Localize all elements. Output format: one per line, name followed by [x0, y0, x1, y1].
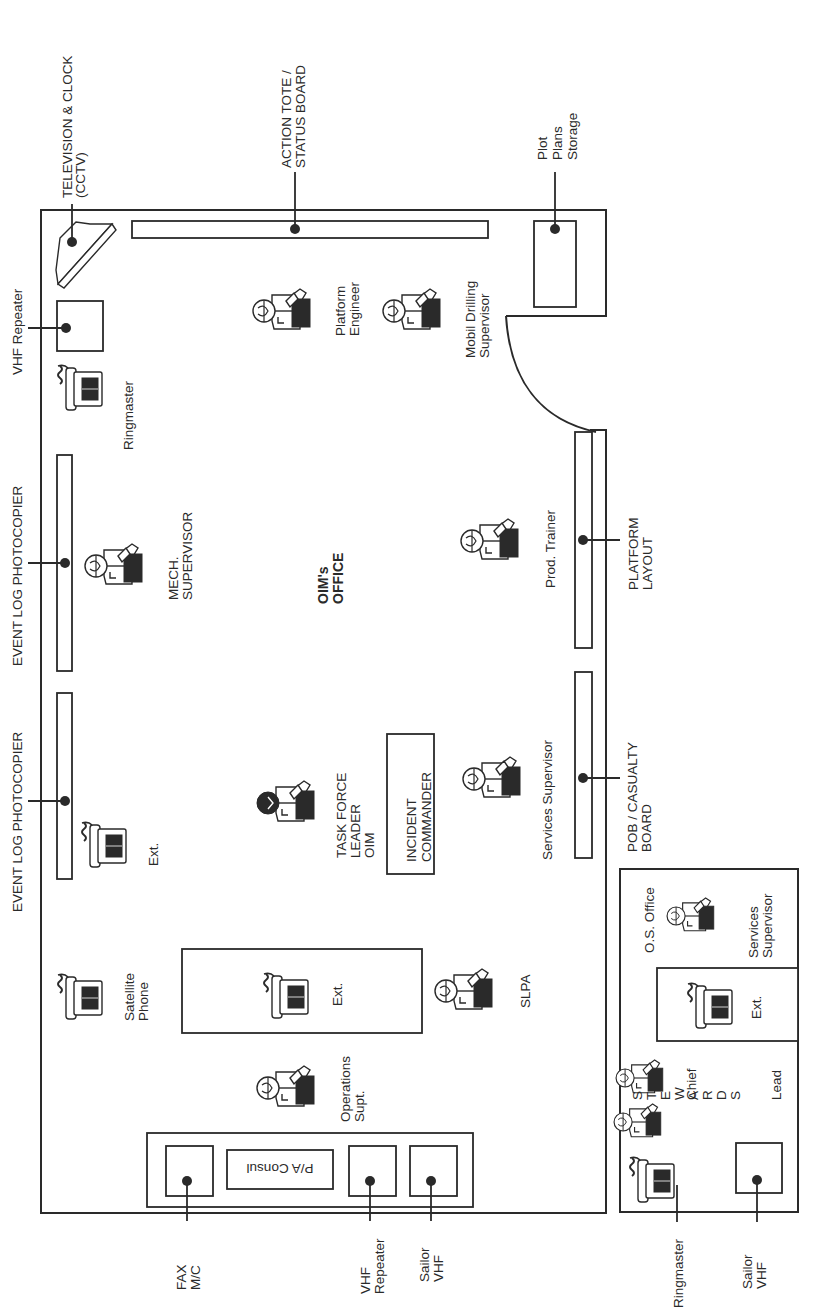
stewards-letter: T	[644, 1092, 659, 1100]
plot-plans-label-line: Plot	[535, 136, 550, 160]
oims-office-title-line: OFFICE	[330, 553, 346, 604]
stewards-letter-line: R	[700, 1090, 715, 1100]
task-force-leader-person-icon	[257, 781, 314, 821]
ext-phone-1-label-line: Ext.	[146, 843, 161, 866]
stewards-letter: E	[658, 1091, 673, 1100]
pa-console-label: P/A Consul	[247, 1161, 314, 1176]
sailor-vhf-main	[410, 1146, 457, 1196]
event-log-photocopier-2	[57, 693, 72, 879]
action-tote-label-line: ACTION TOTE /	[279, 70, 294, 168]
mobil-drilling-supervisor-label: Mobil DrillingSupervisor	[463, 281, 492, 358]
vhf-repeater-bottom-label-line: VHF	[358, 1267, 373, 1294]
satellite-phone-label: SatellitePhone	[122, 973, 151, 1021]
stewards-letter: R	[700, 1090, 715, 1100]
slpa-label-line: SLPA	[518, 974, 533, 1008]
fax-label-line: M/C	[188, 1265, 203, 1290]
platform-engineer-person-icon	[253, 289, 310, 329]
services-supervisor-label-line: Services Supervisor	[540, 739, 555, 860]
event-log-1-label-line: EVENT LOG PHOTOCOPIER	[10, 485, 25, 666]
stewards-letter: A	[686, 1091, 701, 1100]
television-clock-label: TELEVISION & CLOCK(CCTV)	[60, 55, 88, 198]
satellite-phone-label-line: Phone	[136, 982, 151, 1021]
main-room-wall	[41, 210, 606, 1213]
sailor-vhf-main-label-line: Sailor	[417, 1247, 432, 1282]
oims-office-title-line: OIM's	[315, 566, 331, 604]
platform-layout-label-line: PLATFORM	[626, 517, 641, 590]
ringmaster-phone-os-phone-icon	[630, 1157, 674, 1202]
stewards-letter-line: D	[714, 1090, 729, 1100]
stewards-letter-line: S	[630, 1091, 645, 1100]
event-log-2-label-line: EVENT LOG PHOTOCOPIER	[10, 731, 25, 912]
sailor-vhf-main-label-line: VHF	[431, 1255, 446, 1282]
event-log-1-label: EVENT LOG PHOTOCOPIER	[10, 485, 25, 666]
task-force-leader-label-line: TASK FORCE	[334, 773, 349, 858]
platform-layout-label-line: LAYOUT	[640, 537, 655, 590]
ringmaster-phone-label: Ringmaster	[121, 380, 136, 450]
steward-chief-person-icon	[616, 1060, 663, 1093]
stewards-letter: W	[672, 1087, 687, 1100]
sailor-vhf-os-label-line: Sailor	[740, 1254, 755, 1289]
mech-supervisor-label-line: SUPERVISOR	[180, 511, 195, 600]
mech-supervisor-label-line: MECH.	[166, 557, 181, 601]
task-force-leader-label-line: OIM	[362, 833, 377, 859]
ext-phone-table-label: Ext.	[330, 983, 345, 1006]
operations-supt-label-line: Operations	[338, 1056, 353, 1122]
sailor-vhf-os-label-line: VHF	[754, 1262, 769, 1289]
platform-engineer-label-line: Platform	[333, 286, 348, 336]
fax-label-line: FAX	[174, 1264, 189, 1290]
event-log-2-label: EVENT LOG PHOTOCOPIER	[10, 731, 25, 912]
television-clock-label-line: (CCTV)	[73, 152, 88, 198]
pa-console-text: P/A Consul	[247, 1161, 314, 1176]
fax-label: FAXM/C	[174, 1264, 203, 1290]
operations-supt-label: OperationsSupt.	[338, 1056, 367, 1122]
ringmaster-phone-label-line: Ringmaster	[121, 380, 136, 450]
ext-phone-1-phone-icon	[82, 822, 126, 867]
ext-phone-os-label: Ext.	[749, 996, 764, 1019]
platform-layout-label: PLATFORMLAYOUT	[626, 517, 655, 590]
services-supervisor-person-icon	[463, 757, 520, 797]
steward-lead-label-line: Lead	[769, 1070, 784, 1100]
action-tote-label-line: STATUS BOARD	[293, 65, 308, 168]
pob-board-label-line: BOARD	[639, 804, 654, 852]
action-tote-label: ACTION TOTE /STATUS BOARD	[279, 65, 308, 168]
sailor-vhf-os-label: SailorVHF	[740, 1254, 769, 1289]
prod-trainer-label-line: Prod. Trainer	[543, 509, 558, 588]
floor-plan: TELEVISION & CLOCK(CCTV)ACTION TOTE /STA…	[0, 0, 816, 1315]
sailor-vhf-main-label: SailorVHF	[417, 1247, 446, 1282]
stewards-letter-line: E	[658, 1091, 673, 1100]
os-services-supervisor-label-line: Services	[746, 906, 761, 958]
stewards-letter: D	[714, 1090, 729, 1100]
slpa-person-icon	[435, 969, 492, 1009]
mobil-drilling-supervisor-label-line: Supervisor	[477, 293, 492, 358]
action-tote-board	[132, 221, 488, 238]
operations-supt-person-icon	[257, 1066, 314, 1106]
stewards-letter-line: W	[672, 1087, 687, 1100]
slpa-label: SLPA	[518, 974, 533, 1008]
vhf-repeater-bottom	[349, 1146, 396, 1196]
os-office-title: O.S. Office	[642, 887, 657, 953]
ext-phone-1-label: Ext.	[146, 843, 161, 866]
services-supervisor-label: Services Supervisor	[540, 739, 555, 860]
incident-commander-label-line: COMMANDER	[419, 772, 434, 862]
prod-trainer-person-icon	[461, 519, 518, 559]
stewards-letter-line: S	[728, 1091, 743, 1100]
task-force-leader-label: TASK FORCELEADEROIM	[334, 773, 377, 858]
stewards-letter-line: A	[686, 1091, 701, 1100]
plot-plans-label-line: Storage	[565, 113, 580, 160]
mobil-drilling-supervisor-person-icon	[383, 289, 440, 329]
pob-casualty-board	[575, 672, 592, 858]
vhf-repeater-top-label-line: VHF Repeater	[10, 288, 25, 375]
satellite-phone-phone-icon	[58, 974, 102, 1019]
vhf-repeater-top-label: VHF Repeater	[10, 288, 25, 375]
stewards-letter: S	[630, 1091, 645, 1100]
vhf-repeater-bottom-label: VHFRepeater	[358, 1238, 387, 1294]
operations-supt-label-line: Supt.	[352, 1090, 367, 1122]
plot-plans-label: PlotPlansStorage	[535, 113, 580, 160]
oims-office-title: OIM'sOFFICE	[315, 553, 346, 604]
incident-commander-label-line: INCIDENT	[404, 798, 419, 862]
fax-machine	[166, 1146, 213, 1196]
pob-board-label: POB / CASUALTYBOARD	[625, 742, 654, 852]
stewards-letter: S	[728, 1091, 743, 1100]
mech-supervisor-label: MECH.SUPERVISOR	[166, 511, 195, 600]
satellite-phone-label-line: Satellite	[122, 973, 137, 1021]
